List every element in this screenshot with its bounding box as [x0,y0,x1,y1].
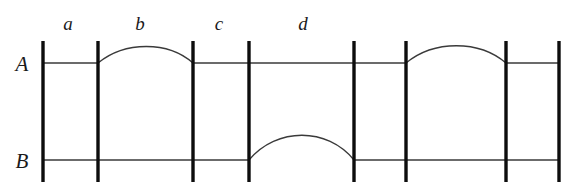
lane-label-a: A [14,52,29,76]
arc-b-1 [249,135,354,160]
arc-a-1 [98,47,193,64]
segment-label-d: d [298,13,308,34]
lane-label-b: B [16,149,29,173]
segment-label-c: c [215,13,224,34]
segment-label-a: a [63,13,73,34]
segment-label-b: b [135,13,145,34]
timeline-figure: A B a b c d [0,0,574,194]
arc-a-2 [406,46,506,63]
vertical-bar-group [43,41,559,182]
figure-canvas: A B a b c d [0,0,574,194]
